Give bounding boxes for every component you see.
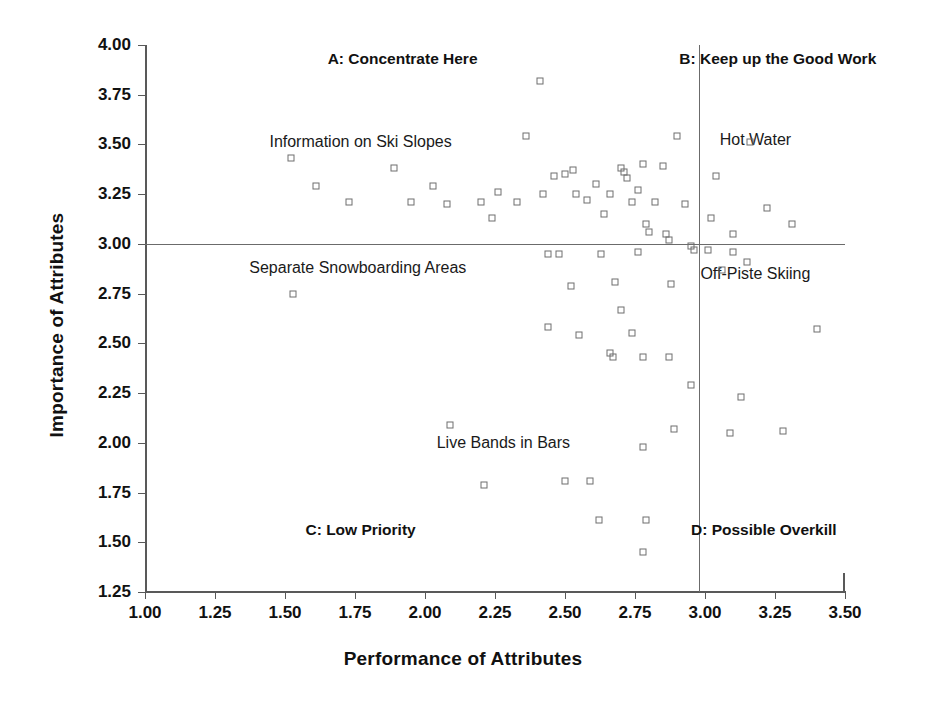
x-axis-right-cap [843, 573, 845, 593]
point-annotation: Information on Ski Slopes [269, 133, 451, 151]
data-point [746, 139, 753, 146]
data-point [682, 201, 689, 208]
data-point [744, 258, 751, 265]
data-point [643, 221, 650, 228]
data-point [601, 211, 608, 218]
data-point [545, 250, 552, 257]
y-tick-label: 1.25 [98, 582, 131, 602]
point-annotation: Live Bands in Bars [437, 434, 570, 452]
x-tick-label: 2.25 [478, 603, 511, 623]
data-point [780, 427, 787, 434]
x-tick [845, 591, 846, 599]
data-point [629, 330, 636, 337]
y-tick-label: 3.25 [98, 184, 131, 204]
data-point [713, 173, 720, 180]
y-axis-title: Importance of Attributes [46, 85, 68, 565]
quadrant-line-vertical [699, 45, 700, 592]
y-tick [138, 194, 146, 195]
x-tick [215, 591, 216, 599]
x-tick [425, 591, 426, 599]
y-tick [138, 144, 146, 145]
y-tick-label: 3.75 [98, 85, 131, 105]
data-point [522, 133, 529, 140]
data-point [660, 163, 667, 170]
data-point [573, 191, 580, 198]
x-tick-label: 2.50 [548, 603, 581, 623]
y-tick [138, 343, 146, 344]
x-axis-title: Performance of Attributes [0, 648, 926, 670]
x-tick [355, 591, 356, 599]
x-tick [145, 591, 146, 599]
quadrant-label-a: A: Concentrate Here [328, 50, 478, 68]
y-tick [138, 443, 146, 444]
point-annotation: Separate Snowboarding Areas [249, 259, 466, 277]
data-point [536, 77, 543, 84]
x-tick-label: 1.25 [198, 603, 231, 623]
x-tick [775, 591, 776, 599]
data-point [545, 324, 552, 331]
data-point [763, 205, 770, 212]
data-point [688, 382, 695, 389]
data-point [629, 199, 636, 206]
data-point [606, 191, 613, 198]
data-point [651, 199, 658, 206]
plot-area: 1.251.501.752.002.252.502.753.003.253.50… [145, 45, 845, 592]
data-point [567, 282, 574, 289]
data-point [674, 133, 681, 140]
x-tick-label: 3.25 [758, 603, 791, 623]
data-point [665, 236, 672, 243]
data-point [718, 266, 725, 273]
data-point [539, 191, 546, 198]
x-tick [495, 591, 496, 599]
data-point [550, 173, 557, 180]
data-point [312, 183, 319, 190]
data-point [671, 425, 678, 432]
y-tick [138, 45, 146, 46]
y-tick [138, 95, 146, 96]
data-point [640, 161, 647, 168]
x-tick [285, 591, 286, 599]
data-point [634, 248, 641, 255]
data-point [704, 246, 711, 253]
data-point [634, 187, 641, 194]
data-point [480, 481, 487, 488]
data-point [618, 306, 625, 313]
y-tick-label: 3.00 [98, 234, 131, 254]
x-tick-label: 2.00 [408, 603, 441, 623]
data-point [447, 421, 454, 428]
x-tick-label: 1.50 [268, 603, 301, 623]
data-point [391, 165, 398, 172]
y-tick-label: 4.00 [98, 35, 131, 55]
y-tick-label: 3.50 [98, 134, 131, 154]
data-point [556, 250, 563, 257]
y-tick [138, 542, 146, 543]
x-tick [635, 591, 636, 599]
y-tick-label: 2.25 [98, 383, 131, 403]
scatter-chart: Importance of Attributes 1.251.501.752.0… [0, 0, 926, 714]
data-point [494, 189, 501, 196]
x-tick [705, 591, 706, 599]
data-point [576, 332, 583, 339]
data-point [346, 199, 353, 206]
y-tick [138, 294, 146, 295]
data-point [287, 155, 294, 162]
point-annotation: Hot Water [720, 131, 791, 149]
data-point [444, 201, 451, 208]
x-tick-label: 1.00 [128, 603, 161, 623]
data-point [609, 354, 616, 361]
x-tick-label: 2.75 [618, 603, 651, 623]
y-tick-label: 2.75 [98, 284, 131, 304]
y-tick-label: 1.50 [98, 532, 131, 552]
data-point [570, 167, 577, 174]
data-point [592, 181, 599, 188]
point-annotation: Off-Piste Skiing [700, 265, 810, 283]
data-point [707, 215, 714, 222]
data-point [612, 278, 619, 285]
quadrant-label-b: B: Keep up the Good Work [679, 50, 876, 68]
y-tick-label: 1.75 [98, 483, 131, 503]
data-point [668, 280, 675, 287]
data-point [562, 477, 569, 484]
y-tick-label: 2.50 [98, 333, 131, 353]
y-axis-line [145, 45, 147, 592]
y-tick [138, 493, 146, 494]
